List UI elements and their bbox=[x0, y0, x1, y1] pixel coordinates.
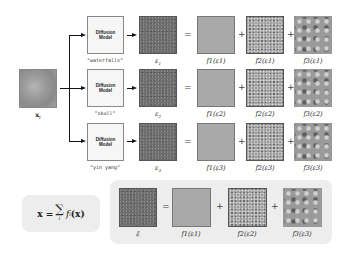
component-image-f1 bbox=[197, 123, 235, 161]
arrow-icon bbox=[132, 139, 137, 143]
component-image-f2 bbox=[246, 69, 284, 107]
diffusion-model-box: DiffusionModel bbox=[87, 69, 124, 107]
noise-image-eps1 bbox=[139, 16, 177, 54]
component-label: f1(ε1) bbox=[191, 57, 241, 65]
plus-sign: + bbox=[238, 82, 246, 92]
formula: x = ∑ i fi(x) bbox=[22, 195, 100, 232]
prompt-text: "skull" bbox=[75, 110, 135, 116]
combined-component-f2 bbox=[228, 188, 267, 227]
noise-image-eps2 bbox=[139, 69, 177, 107]
component-image-f2 bbox=[246, 123, 284, 161]
plus-sign: + bbox=[238, 29, 246, 39]
input-label: xt bbox=[13, 111, 63, 120]
prompt-text: "waterfalls" bbox=[75, 57, 135, 63]
plus-sign: + bbox=[238, 136, 246, 146]
arrow-icon bbox=[81, 86, 86, 90]
diffusion-model-box: DiffusionModel bbox=[87, 123, 124, 161]
combined-noise-image bbox=[119, 188, 157, 227]
component-label: f1(ε3) bbox=[191, 164, 241, 172]
equals-sign: = bbox=[184, 136, 192, 146]
eps-label: ε2 bbox=[133, 110, 183, 119]
arrow-icon bbox=[132, 86, 137, 90]
component-label: f3(ε3) bbox=[288, 164, 338, 172]
component-label: f3(ε2) bbox=[288, 110, 338, 118]
combined-eps-label: ε̃ bbox=[113, 230, 163, 238]
component-label: f3(ε3) bbox=[277, 230, 327, 238]
prompt-text: "yin yang" bbox=[75, 164, 135, 170]
eps-label: ε3 bbox=[133, 164, 183, 173]
component-label: f1(ε1) bbox=[166, 230, 216, 238]
arrow-icon bbox=[81, 139, 86, 143]
component-label: f2(ε3) bbox=[240, 164, 290, 172]
arrow-icon bbox=[81, 33, 86, 37]
combined-component-f1 bbox=[172, 188, 211, 227]
component-label: f2(ε2) bbox=[240, 110, 290, 118]
input-image-xt bbox=[19, 69, 57, 108]
component-label: f3(ε1) bbox=[288, 57, 338, 65]
equals-sign: = bbox=[184, 82, 192, 92]
plus-sign: + bbox=[216, 201, 224, 211]
diffusion-model-box: DiffusionModel bbox=[87, 16, 124, 54]
arrow-icon bbox=[132, 33, 137, 37]
component-image-f1 bbox=[197, 69, 235, 107]
equals-sign: = bbox=[162, 201, 170, 211]
component-label: f1(ε2) bbox=[191, 110, 241, 118]
plus-sign: + bbox=[271, 201, 279, 211]
noise-image-eps3 bbox=[139, 123, 177, 161]
equals-sign: = bbox=[184, 29, 192, 39]
component-image-f3 bbox=[294, 69, 332, 107]
component-image-f2 bbox=[246, 16, 284, 54]
component-image-f1 bbox=[197, 16, 235, 54]
eps-label: ε1 bbox=[133, 57, 183, 66]
component-label: f2(ε2) bbox=[222, 230, 272, 238]
component-label: f2(ε1) bbox=[240, 57, 290, 65]
combined-component-f3 bbox=[283, 188, 322, 227]
component-image-f3 bbox=[294, 16, 332, 54]
connector-line bbox=[60, 88, 69, 89]
component-image-f3 bbox=[294, 123, 332, 161]
